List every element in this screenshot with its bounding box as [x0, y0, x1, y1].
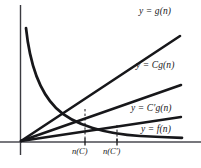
label-f-of-n: y = f(n) [141, 124, 171, 134]
tick-label-n-c: n(C) [72, 146, 88, 156]
label-g-of-n: y = g(n) [139, 6, 171, 16]
figure-canvas [0, 0, 201, 168]
label-c-g-of-n: y = Cg(n) [136, 60, 174, 70]
label-c-prime-g-of-n: y = C′g(n) [131, 103, 172, 113]
tick-label-n-c-prime: n(C′) [103, 146, 120, 156]
asymptotic-growth-figure: y = g(n) y = Cg(n) y = C′g(n) y = f(n) n… [0, 0, 201, 168]
